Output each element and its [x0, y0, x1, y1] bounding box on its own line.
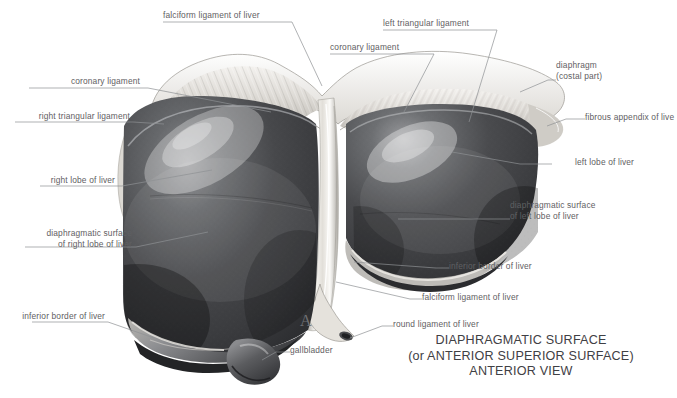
label-falciform-ligament-of-liver-bottom: falciform ligament of liver: [422, 292, 519, 303]
label-coronary-ligament-left: coronary ligament: [0, 76, 140, 87]
figure-title-line3: ANTERIOR VIEW: [386, 364, 656, 380]
label-gallbladder: gallbladder: [290, 345, 333, 356]
label-diaphragm-costal-part: (costal part): [556, 71, 602, 82]
figure-title-line1: DIAPHRAGMATIC SURFACE: [386, 333, 656, 349]
label-diaphragmatic-surface-of-left-lobe-line1: diaphragmatic surface: [510, 200, 596, 211]
label-diaphragmatic-surface-of-right-lobe-line1: diaphragmatic surface: [0, 228, 132, 239]
label-fibrous-appendix-of-liver: fibrous appendix of live: [585, 112, 674, 123]
label-coronary-ligament-right: coronary ligament: [330, 42, 399, 53]
figure-marker-a: A: [300, 312, 312, 330]
figure-title-line2: (or ANTERIOR SUPERIOR SURFACE): [386, 349, 656, 365]
label-falciform-ligament-of-liver-top: falciform ligament of liver: [163, 10, 260, 21]
figure-title: DIAPHRAGMATIC SURFACE (or ANTERIOR SUPER…: [386, 333, 656, 380]
label-right-triangular-ligament: right triangular ligament: [0, 111, 130, 122]
label-inferior-border-of-liver-left: inferior border of liver: [0, 311, 105, 322]
label-left-triangular-ligament: left triangular ligament: [383, 18, 469, 29]
label-right-lobe-of-liver: right lobe of liver: [0, 175, 115, 186]
label-inferior-border-of-liver-right: inferior border of liver: [449, 261, 532, 272]
label-diaphragmatic-surface-of-right-lobe-line2: of right lobe of liver: [0, 239, 132, 250]
illustration-canvas: falciform ligament of liver left triangu…: [0, 0, 677, 398]
label-diaphragm: diaphragm: [556, 60, 597, 71]
label-left-lobe-of-liver: left lobe of liver: [575, 157, 634, 168]
label-round-ligament-of-liver: round ligament of liver: [393, 319, 479, 330]
label-diaphragmatic-surface-of-left-lobe-line2: of left lobe of liver: [510, 211, 579, 222]
